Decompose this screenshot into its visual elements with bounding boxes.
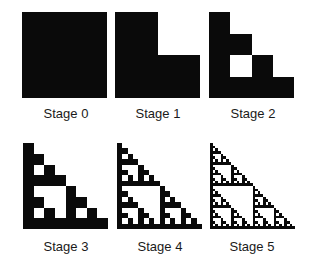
sierpinski-pattern [210, 143, 295, 229]
stage-1-figure [115, 12, 200, 98]
stage-0-figure [22, 12, 107, 98]
stage-3-label: Stage 3 [21, 239, 111, 254]
stage-1-label: Stage 1 [113, 106, 203, 121]
stage-2-label: Stage 2 [208, 106, 298, 121]
stage-3-figure [23, 143, 108, 229]
sierpinski-pattern [209, 12, 294, 98]
stage-5-figure [210, 143, 295, 229]
sierpinski-pattern [23, 143, 108, 229]
sierpinski-pattern [115, 12, 200, 98]
stage-5-label: Stage 5 [207, 239, 297, 254]
stage-0-label: Stage 0 [21, 106, 111, 121]
sierpinski-pattern [22, 12, 107, 98]
stage-2-figure [209, 12, 294, 98]
stage-4-figure [117, 143, 202, 229]
sierpinski-pattern [117, 143, 202, 229]
stage-4-label: Stage 4 [115, 239, 205, 254]
